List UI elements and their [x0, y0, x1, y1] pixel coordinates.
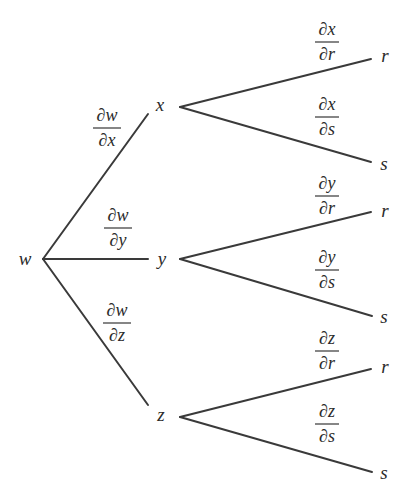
numerator: ∂z: [319, 401, 335, 421]
denominator: ∂y: [110, 230, 127, 250]
denominator: ∂s: [319, 119, 335, 139]
edge-w-z: [43, 259, 148, 405]
node-w: w: [19, 248, 32, 269]
numerator: ∂w: [107, 300, 128, 320]
edge-z-s: [180, 417, 372, 472]
denominator: ∂r: [319, 198, 336, 218]
leaf-x-s: s: [380, 153, 387, 174]
numerator: ∂w: [108, 205, 129, 225]
numerator: ∂y: [319, 173, 336, 193]
numerator: ∂z: [319, 328, 335, 348]
node-y: y: [156, 248, 167, 269]
level1-edges: [43, 114, 148, 405]
numerator: ∂x: [319, 94, 336, 114]
edge-y-s: [180, 259, 372, 316]
fraction-dy-dr: ∂y ∂r: [315, 173, 339, 218]
numerator: ∂y: [319, 247, 336, 267]
fraction-dz-dr: ∂z ∂r: [315, 328, 339, 373]
node-x: x: [155, 94, 165, 115]
leaf-z-r: r: [381, 356, 389, 377]
edge-z-r: [180, 369, 371, 417]
leaf-y-s: s: [380, 306, 387, 327]
denominator: ∂x: [99, 130, 116, 150]
edge-w-x: [43, 114, 148, 259]
denominator: ∂z: [109, 325, 125, 345]
edge-y-r: [180, 212, 371, 259]
leaf-z-s: s: [380, 462, 387, 483]
node-z: z: [156, 404, 165, 425]
numerator: ∂x: [319, 19, 336, 39]
fraction-dy-ds: ∂y ∂s: [315, 247, 339, 292]
leaf-y-r: r: [381, 200, 389, 221]
fraction-dz-ds: ∂z ∂s: [315, 401, 339, 446]
denominator: ∂s: [319, 426, 335, 446]
fraction-dw-dz: ∂w ∂z: [103, 300, 131, 345]
denominator: ∂r: [319, 44, 336, 64]
fraction-dx-dr: ∂x ∂r: [315, 19, 339, 64]
edge-x-r: [180, 59, 371, 107]
denominator: ∂s: [319, 272, 335, 292]
fraction-dx-ds: ∂x ∂s: [315, 94, 339, 139]
fraction-dw-dy: ∂w ∂y: [104, 205, 132, 250]
leaf-x-r: r: [381, 45, 389, 66]
fraction-dw-dx: ∂w ∂x: [93, 105, 121, 150]
edge-x-s: [180, 107, 371, 162]
chain-rule-tree-diagram: w x y z r s r s r s ∂w ∂x ∂w ∂y ∂w ∂z ∂x…: [0, 0, 403, 485]
level2-edges: [180, 59, 372, 472]
numerator: ∂w: [97, 105, 118, 125]
denominator: ∂r: [319, 353, 336, 373]
